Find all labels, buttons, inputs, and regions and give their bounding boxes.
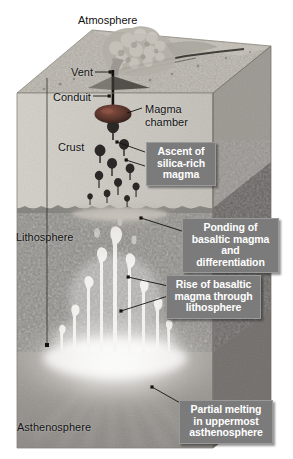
callout-ponding-of-basaltic-magma: Ponding of basaltic magma and differenti…	[182, 218, 279, 273]
ponding-basaltic-sill	[58, 204, 182, 226]
callout-ascent-of-silica-rich-magma: Ascent of silica-rich magma	[146, 142, 216, 186]
label-atmosphere: Atmosphere	[78, 14, 137, 27]
label-crust: Crust	[58, 141, 84, 154]
label-asthenosphere: Asthenosphere	[17, 421, 91, 434]
label-magma-chamber: Magma chamber	[145, 103, 188, 128]
callout-rise-of-basaltic-magma: Rise of basaltic magma through lithosphe…	[166, 275, 261, 319]
label-lithosphere: Lithosphere	[16, 231, 74, 244]
label-conduit: Conduit	[53, 91, 91, 104]
callout-partial-melting-asthenosphere: Partial melting in uppermost asthenosphe…	[179, 400, 273, 444]
figure-canvas: Atmosphere Vent Conduit Magma chamber Cr…	[0, 0, 293, 459]
label-vent: Vent	[71, 66, 93, 79]
